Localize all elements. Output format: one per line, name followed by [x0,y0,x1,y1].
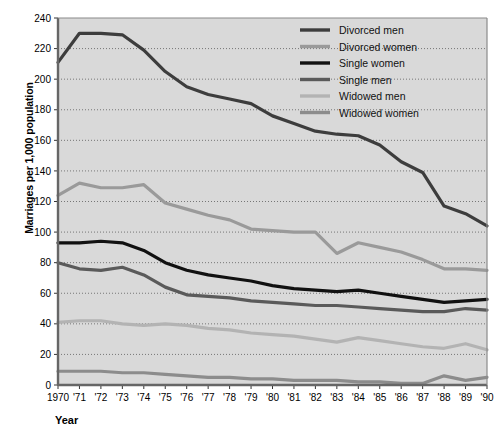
x-axis-title: Year [55,414,78,426]
y-axis-tick-label: 140 [34,166,51,177]
y-axis-tick-label: 40 [40,318,52,329]
x-axis-tick-label: '80 [266,392,279,403]
x-axis-tick-label: '79 [245,392,258,403]
x-axis-tick-label: '71 [73,392,86,403]
x-axis-tick-label: '75 [159,392,172,403]
x-axis-tick-label: '87 [416,392,429,403]
x-axis-tick-label: '85 [373,392,386,403]
x-axis-tick-label: '86 [395,392,408,403]
x-axis-tick-label: '72 [94,392,107,403]
x-axis-tick-label: '90 [480,392,493,403]
x-axis-tick-label: '83 [330,392,343,403]
legend-label: Divorced men [339,24,404,36]
x-axis-tick-label: '73 [116,392,129,403]
y-axis-tick-label: 180 [34,104,51,115]
y-axis-tick-label: 20 [40,349,52,360]
y-axis-tick-label: 120 [34,196,51,207]
x-axis-tick-label: '84 [352,392,365,403]
y-axis-tick-label: 60 [40,288,52,299]
legend-label: Divorced women [339,41,417,53]
legend-label: Single men [339,74,392,86]
x-axis-tick-label: '81 [287,392,300,403]
x-axis-tick-label: '77 [202,392,215,403]
legend-label: Widowed women [339,107,419,119]
y-axis-tick-label: 200 [34,74,51,85]
chart-container: Marriages per 1,000 population Year 0204… [0,0,499,434]
y-axis-title: Marriages per 1,000 population [23,33,35,283]
x-axis-tick-label: '89 [459,392,472,403]
x-axis-tick-label: '78 [223,392,236,403]
y-axis-tick-label: 100 [34,227,51,238]
legend-label: Widowed men [339,90,406,102]
x-axis-tick-label: '76 [180,392,193,403]
y-axis-tick-label: 0 [45,380,51,391]
x-axis-tick-label: '88 [438,392,451,403]
y-axis-tick-label: 240 [34,13,51,24]
plot-background [58,18,487,385]
legend-label: Single women [339,57,405,69]
x-axis-tick-label: '74 [137,392,150,403]
y-axis-tick-label: 80 [40,257,52,268]
y-axis-tick-label: 220 [34,43,51,54]
line-chart: 0204060801001201401601802002202401970'71… [0,0,499,434]
x-axis-tick-label: 1970 [47,392,70,403]
x-axis-tick-label: '82 [309,392,322,403]
y-axis-tick-label: 160 [34,135,51,146]
